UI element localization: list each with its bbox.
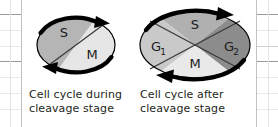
caption-cell-cycle-after-cleavage: Cell cycle after cleavage stage <box>140 88 225 115</box>
cell-cycle-after-cleavage-svg: S G 1 G 2 M <box>134 2 256 88</box>
diagram-cell-cycle-after-cleavage: S G 1 G 2 M <box>134 2 256 88</box>
phase-label-m: M <box>189 56 200 71</box>
phase-label-g2-subscript: 2 <box>233 47 239 57</box>
phase-wedge-s <box>16 0 136 94</box>
phase-label-g1-subscript: 1 <box>160 47 166 57</box>
grid-line <box>268 0 269 127</box>
caption-cell-cycle-during-cleavage: Cell cycle during cleavage stage <box>29 88 122 115</box>
phase-label-s: S <box>60 25 68 40</box>
grid-line <box>256 0 257 127</box>
phase-label-m: M <box>86 47 97 62</box>
figure-panel: S M Cell cycle during cleavage stage <box>22 0 256 127</box>
diagram-cell-cycle-during-cleavage: S M <box>26 6 126 84</box>
phase-label-s: S <box>191 17 199 32</box>
cell-cycle-during-cleavage-svg: S M <box>26 6 126 84</box>
figure-canvas: S M Cell cycle during cleavage stage <box>0 0 278 127</box>
grid-line <box>10 0 11 127</box>
